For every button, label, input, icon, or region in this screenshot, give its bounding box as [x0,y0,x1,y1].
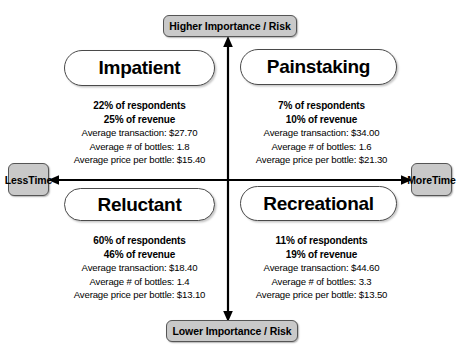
quadrant-stats-impatient: 22% of respondents 25% of revenue Averag… [48,99,231,167]
quadrant-diagram: Higher Importance / Risk Lower Importanc… [0,0,458,351]
stat-respondents: 60% of respondents [48,234,231,248]
stat-avg-transaction: Average transaction: $18.40 [48,261,231,275]
quadrant-stats-painstaking: 7% of respondents 10% of revenue Average… [228,99,415,167]
axis-label-more-time-line1: More [407,174,432,186]
axis-label-less-time-line2: Time [28,174,52,186]
stat-avg-bottles: Average # of bottles: 1.4 [48,275,231,289]
stat-avg-price: Average price per bottle: $13.10 [48,288,231,302]
stat-avg-price: Average price per bottle: $13.50 [228,288,415,302]
stat-revenue: 46% of revenue [48,248,231,262]
quadrant-title-impatient: Impatient [64,50,215,86]
axis-label-higher-importance: Higher Importance / Risk [163,15,297,37]
axis-arrow-up-icon [223,36,233,47]
stat-revenue: 25% of revenue [48,113,231,127]
stat-avg-transaction: Average transaction: $34.00 [228,126,415,140]
quadrant-title-recreational: Recreational [240,186,397,221]
stat-avg-bottles: Average # of bottles: 1.8 [48,140,231,154]
axis-label-more-time-line2: Time [432,174,456,186]
stat-avg-transaction: Average transaction: $27.70 [48,126,231,140]
stat-avg-price: Average price per bottle: $21.30 [228,153,415,167]
axis-label-more-time: More Time [411,163,452,196]
stat-revenue: 19% of revenue [228,248,415,262]
quadrant-stats-recreational: 11% of respondents 19% of revenue Averag… [228,234,415,302]
quadrant-title-reluctant: Reluctant [64,188,215,221]
stat-respondents: 22% of respondents [48,99,231,113]
stat-respondents: 7% of respondents [228,99,415,113]
axis-label-less-time-line1: Less [5,174,29,186]
stat-avg-price: Average price per bottle: $15.40 [48,153,231,167]
stat-avg-bottles: Average # of bottles: 1.6 [228,140,415,154]
axis-label-lower-importance: Lower Importance / Risk [166,320,298,342]
stat-avg-transaction: Average transaction: $44.60 [228,261,415,275]
stat-avg-bottles: Average # of bottles: 3.3 [228,275,415,289]
quadrant-stats-reluctant: 60% of respondents 46% of revenue Averag… [48,234,231,302]
stat-revenue: 10% of revenue [228,113,415,127]
stat-respondents: 11% of respondents [228,234,415,248]
quadrant-title-painstaking: Painstaking [240,49,397,85]
axis-label-less-time: Less Time [8,163,49,196]
